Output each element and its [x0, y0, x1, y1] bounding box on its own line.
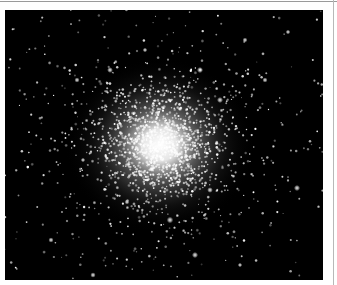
star	[207, 164, 209, 166]
star	[105, 188, 107, 190]
star	[120, 171, 121, 172]
star	[164, 153, 167, 156]
star	[123, 172, 126, 175]
star	[107, 149, 109, 151]
star	[317, 205, 321, 209]
star	[152, 153, 153, 154]
star	[200, 164, 203, 167]
star	[246, 117, 248, 119]
star	[167, 162, 170, 165]
star	[198, 104, 199, 105]
star	[260, 76, 262, 78]
star	[169, 120, 171, 122]
star	[202, 187, 204, 189]
star	[228, 221, 231, 224]
star	[166, 131, 169, 134]
star	[319, 95, 322, 98]
star	[275, 100, 277, 102]
star	[193, 237, 194, 238]
star	[213, 81, 216, 84]
star	[100, 203, 102, 205]
star	[131, 147, 134, 150]
star	[193, 122, 195, 124]
star	[40, 116, 43, 119]
star	[206, 101, 209, 104]
star	[291, 66, 292, 67]
star	[160, 207, 163, 210]
star	[125, 103, 127, 105]
star	[170, 177, 172, 179]
star	[60, 163, 61, 164]
star	[114, 181, 117, 184]
star	[263, 163, 265, 165]
star	[166, 58, 169, 61]
star	[221, 165, 223, 167]
star	[229, 213, 231, 215]
star	[125, 265, 128, 268]
star	[187, 169, 189, 171]
star	[167, 213, 168, 214]
star	[177, 195, 180, 198]
star	[246, 159, 250, 163]
star	[224, 185, 226, 187]
star	[105, 186, 107, 188]
star	[15, 267, 17, 269]
star	[135, 24, 138, 27]
star	[281, 176, 283, 178]
star	[82, 122, 84, 124]
star	[127, 126, 128, 127]
star	[178, 94, 182, 98]
star	[173, 108, 177, 112]
star	[161, 151, 162, 152]
star	[217, 15, 219, 17]
star	[112, 104, 114, 106]
star	[127, 226, 129, 228]
star	[16, 231, 17, 232]
star	[18, 89, 21, 92]
star	[261, 52, 265, 56]
star	[155, 134, 156, 135]
star	[15, 238, 16, 239]
star	[151, 231, 153, 233]
star	[35, 81, 38, 84]
star	[80, 256, 82, 258]
star	[97, 107, 100, 110]
star	[200, 120, 203, 123]
star	[190, 77, 191, 78]
star	[218, 144, 220, 146]
star	[110, 225, 113, 228]
star	[321, 83, 323, 86]
star	[266, 156, 268, 158]
star	[216, 142, 218, 144]
star	[102, 139, 104, 141]
star-field	[5, 10, 323, 280]
star	[238, 189, 240, 191]
star	[283, 33, 284, 34]
star	[148, 125, 151, 128]
star	[170, 135, 174, 139]
star	[309, 140, 312, 143]
star	[88, 207, 90, 209]
star	[110, 127, 113, 130]
star	[172, 175, 176, 179]
star	[136, 138, 138, 140]
star	[294, 185, 300, 191]
star	[141, 212, 144, 215]
star	[263, 174, 265, 176]
star	[300, 111, 301, 112]
star	[172, 184, 174, 186]
star	[76, 100, 78, 102]
star	[48, 61, 52, 65]
star	[112, 174, 114, 176]
star	[200, 176, 203, 179]
star	[169, 126, 173, 130]
star	[165, 101, 167, 103]
star	[221, 146, 222, 147]
star	[206, 169, 209, 172]
star	[120, 113, 122, 115]
star	[144, 170, 146, 172]
star	[153, 258, 154, 259]
star	[146, 139, 148, 141]
star	[158, 111, 160, 113]
star	[65, 219, 68, 222]
